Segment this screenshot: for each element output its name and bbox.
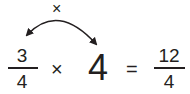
whole-number: 4 [88,50,108,86]
fraction-result-denominator: 4 [159,72,179,91]
fraction-result-numerator: 12 [156,46,182,65]
fraction-left-bar [8,67,38,69]
equals-sign: = [126,59,138,79]
fraction-result-bar [154,67,185,69]
fraction-left-denominator: 4 [12,72,32,91]
fraction-left-numerator: 3 [12,46,32,65]
times-operator: × [51,59,63,79]
arc-operator-label: × [52,0,61,19]
